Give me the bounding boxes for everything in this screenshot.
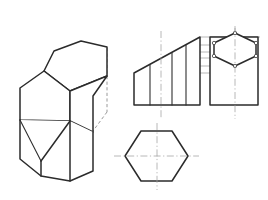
vertex-marker-lower-right <box>254 54 257 57</box>
front-view <box>134 31 200 119</box>
front-view-fill <box>134 37 200 105</box>
hidden-edge-rear-corner-right <box>93 112 107 131</box>
iso-lower-prism-fill <box>20 120 93 181</box>
side-view <box>210 26 258 119</box>
vertex-marker-upper-left <box>212 41 215 44</box>
vertex-marker-upper-right <box>254 41 257 44</box>
vertex-marker-lower-left <box>212 54 215 57</box>
isometric-view <box>20 41 107 181</box>
top-view <box>114 123 199 190</box>
technical-drawing-sheet <box>0 0 268 200</box>
drawing-canvas <box>0 0 268 200</box>
